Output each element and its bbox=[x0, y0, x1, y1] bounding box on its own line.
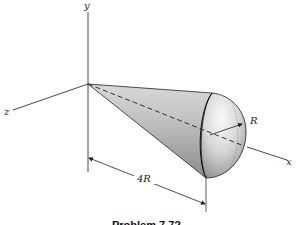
cone-surface bbox=[88, 84, 212, 178]
x-axis bbox=[247, 147, 287, 160]
z-axis-label: z bbox=[3, 106, 10, 117]
x-axis-label: x bbox=[286, 156, 292, 167]
figure-caption: Problem 7.7? bbox=[112, 219, 181, 225]
y-axis-label: y bbox=[83, 0, 90, 11]
cone-hemisphere-diagram: y z x R 4R Problem 7.7? bbox=[0, 0, 296, 225]
length-label: 4R bbox=[136, 173, 151, 184]
z-axis bbox=[13, 84, 88, 110]
hemisphere-cap bbox=[201, 93, 246, 178]
radius-label: R bbox=[249, 115, 258, 126]
